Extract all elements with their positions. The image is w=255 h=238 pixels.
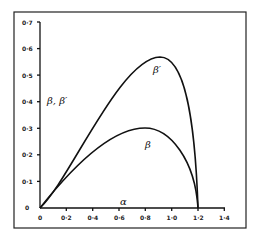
y-tick-label: 0	[25, 204, 29, 211]
x-tick-label: 0·6	[114, 214, 125, 221]
x-tick-label: 1·0	[167, 214, 178, 221]
y-tick-label: 0·1	[22, 178, 33, 185]
x-tick-label: 1·4	[219, 214, 230, 221]
x-tick-label: 0	[38, 214, 42, 221]
y-tick-label: 0·5	[22, 72, 33, 79]
x-tick-label: 0·2	[61, 214, 72, 221]
x-tick-label: 1·2	[193, 214, 204, 221]
y-tick-label: 0·2	[22, 151, 33, 158]
y-tick-label: 0·4	[22, 98, 33, 105]
x-tick-labels: 0 0·2 0·4 0·6 0·8 1·0 1·2 1·4	[38, 214, 230, 221]
chart-frame	[14, 12, 246, 228]
y-tick-label: 0·7	[22, 19, 33, 26]
beta-curve	[40, 128, 198, 208]
beta-prime-curve	[40, 57, 198, 208]
y-tick-label: 0·3	[22, 125, 33, 132]
y-tick-label: 0·6	[22, 45, 33, 52]
y-tick-labels: 0 0·1 0·2 0·3 0·4 0·5 0·6 0·7	[22, 19, 33, 212]
beta-prime-label: β′	[152, 64, 162, 75]
x-tick-label: 0·4	[88, 214, 99, 221]
beta-label: β	[144, 139, 151, 150]
chart: 0 0·1 0·2 0·3 0·4 0·5 0·6 0·7 0 0·2 0·4 …	[0, 0, 255, 238]
y-axis-label: β, β′	[46, 95, 68, 106]
x-axis-label: α	[120, 196, 127, 207]
x-tick-label: 0·8	[140, 214, 151, 221]
